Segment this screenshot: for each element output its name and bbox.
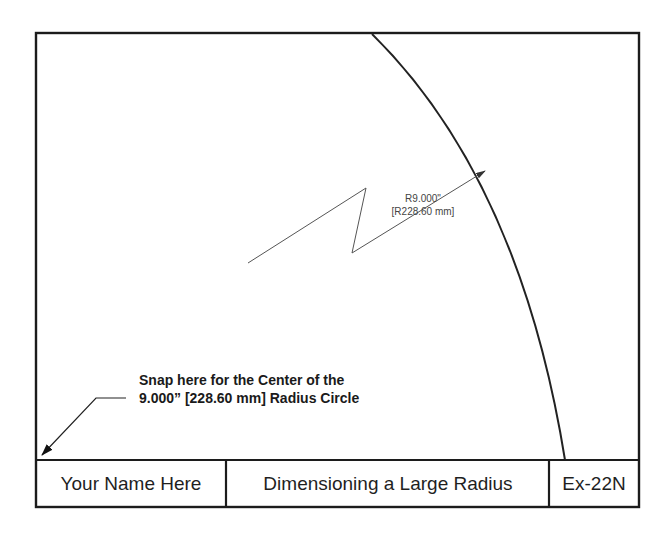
- radius-arc: [372, 34, 565, 460]
- dimension-label-inch: R9.000": [405, 193, 441, 204]
- note-line-1: Snap here for the Center of the: [139, 372, 345, 388]
- jogged-dimension-line: [248, 171, 485, 263]
- title-block-number: Ex-22N: [562, 473, 625, 494]
- technical-drawing: R9.000" [R228.60 mm] Snap here for the C…: [0, 0, 672, 534]
- drawing-border: [36, 33, 639, 507]
- dimension-label-mm: [R228.60 mm]: [392, 206, 455, 217]
- note-line-2: 9.000” [228.60 mm] Radius Circle: [139, 390, 359, 406]
- title-block-name: Your Name Here: [61, 473, 202, 494]
- note-leader-arrow: [42, 398, 126, 455]
- title-block-title: Dimensioning a Large Radius: [263, 473, 512, 494]
- title-block: Your Name Here Dimensioning a Large Radi…: [36, 460, 639, 507]
